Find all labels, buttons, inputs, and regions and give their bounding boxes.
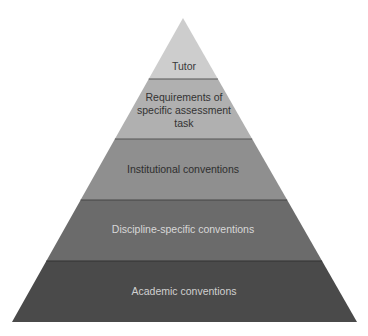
label-line: Discipline-specific conventions [112, 223, 254, 235]
level-label-academic: Academic conventions [131, 285, 236, 298]
label-line: Tutor [172, 60, 196, 72]
label-line: Requirements of [137, 91, 231, 104]
level-label-tutor: Tutor [172, 60, 196, 73]
label-line: Academic conventions [131, 285, 236, 297]
label-line: Institutional conventions [127, 163, 239, 175]
label-line: task [137, 117, 231, 130]
level-label-institutional: Institutional conventions [127, 163, 239, 176]
label-line: specific assessment [137, 104, 231, 117]
level-label-assessment-task: Requirements of specific assessment task [137, 91, 231, 130]
level-label-discipline: Discipline-specific conventions [112, 223, 254, 236]
